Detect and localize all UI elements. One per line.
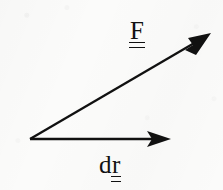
displacement-vector-label-text: r	[112, 152, 120, 177]
force-vector-group	[30, 33, 211, 139]
force-vector-shaft	[30, 42, 196, 139]
displacement-vector-label: dr	[99, 152, 120, 177]
force-vector-arrowhead	[185, 33, 211, 55]
vector-diagram-figure: F dr	[0, 0, 223, 190]
displacement-vector-group	[30, 131, 171, 147]
force-vector-label-text: F	[130, 18, 144, 43]
force-vector-label: F	[130, 18, 144, 43]
displacement-differential-prefix: d	[99, 152, 112, 177]
